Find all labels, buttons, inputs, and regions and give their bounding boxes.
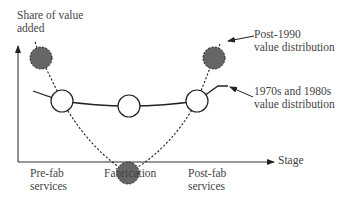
stage-label-postfab: Post-fab services bbox=[188, 167, 226, 193]
stage-label-prefab: Pre-fab services bbox=[30, 167, 67, 193]
stage-label-fabrication: Fabrication bbox=[104, 167, 156, 180]
1970s-marker-prefab bbox=[51, 90, 73, 112]
y-axis-label: Share of value added bbox=[17, 9, 83, 35]
1970s-1980s-label: 1970s and 1980s value distribution bbox=[254, 85, 335, 111]
post-1990-marker-prefab bbox=[30, 47, 52, 69]
1970s-marker-fabrication bbox=[118, 95, 140, 117]
post-1990-marker-postfab bbox=[203, 47, 225, 69]
post-1990-callout-arrow bbox=[228, 36, 254, 41]
1970s-marker-postfab bbox=[186, 90, 208, 112]
post-1990-label: Post-1990 value distribution bbox=[254, 28, 335, 54]
1970s-callout-arrow bbox=[230, 87, 253, 97]
x-axis-label: Stage bbox=[278, 154, 304, 167]
